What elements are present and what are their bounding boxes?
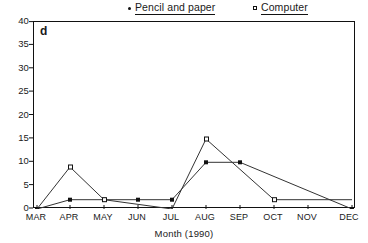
series-markers-computer: [69, 137, 277, 202]
legend-label-computer: Computer: [261, 1, 308, 15]
series-pencil-and-paper: [37, 162, 352, 209]
data-point-marker: [170, 198, 174, 202]
plot-area: d: [33, 21, 355, 208]
y-tick-label: 15: [7, 133, 29, 143]
filled-dot-marker-icon: [128, 7, 131, 10]
x-tick-label: DEC: [329, 212, 368, 222]
y-tick-label: 40: [7, 16, 29, 26]
data-point-marker: [238, 160, 242, 164]
open-square-marker-icon: [253, 6, 257, 10]
data-point-marker: [205, 137, 209, 141]
y-tick-label: 35: [7, 39, 29, 49]
legend-item-pencil-and-paper: Pencil and paper: [128, 0, 215, 16]
series-line-computer: [37, 139, 352, 209]
chart-figure: Pencil and paper Computer 0 5 10 15 20 2…: [0, 0, 368, 243]
y-tick-label: 5: [7, 180, 29, 190]
chart-legend: Pencil and paper Computer: [0, 0, 368, 18]
y-tick-label: 10: [7, 156, 29, 166]
y-tick-label: 30: [7, 63, 29, 73]
x-axis-title: Month (1990): [0, 228, 368, 239]
data-point-marker: [204, 160, 208, 164]
data-point-marker: [68, 198, 72, 202]
chart-plot-svg: [34, 22, 356, 209]
data-point-marker: [103, 198, 107, 202]
x-tick-label: NOV: [287, 212, 327, 222]
data-point-marker: [273, 198, 277, 202]
legend-label-pencil-and-paper: Pencil and paper: [135, 1, 215, 15]
y-tick-label: 20: [7, 110, 29, 120]
x-tick-marks: [37, 205, 352, 209]
y-tick-label: 25: [7, 86, 29, 96]
series-line-pencil-and-paper: [37, 162, 352, 209]
data-point-marker: [136, 198, 140, 202]
series-computer: [37, 139, 352, 209]
series-markers-pencil-and-paper: [35, 160, 354, 209]
y-axis: 0 5 10 15 20 25 30 35 40: [0, 0, 29, 243]
data-point-marker: [69, 165, 73, 169]
legend-item-computer: Computer: [253, 0, 308, 16]
